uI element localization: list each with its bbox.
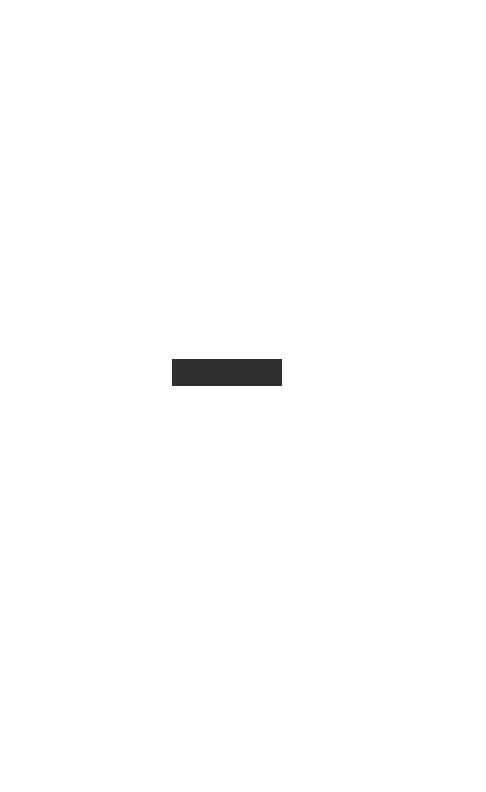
redaction-bar bbox=[172, 359, 282, 386]
document-page bbox=[0, 0, 486, 792]
